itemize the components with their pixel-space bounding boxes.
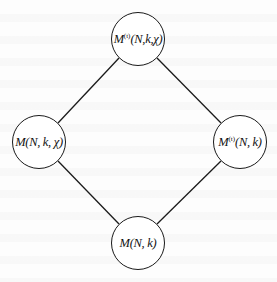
node-right: M(t)(N, k) [213, 115, 267, 169]
node-top-label: M(t)(N,k,χ) [114, 32, 163, 47]
node-left: M(N, k, χ) [12, 115, 66, 169]
diagram-canvas: M(t)(N,k,χ) M(N, k, χ) M(t)(N, k) M(N, k… [0, 0, 277, 282]
edge-top-right [157, 58, 221, 123]
edge-top-left [58, 58, 119, 123]
edge-right-bottom [157, 161, 221, 224]
node-top: M(t)(N,k,χ) [111, 12, 165, 66]
node-bottom: M(N, k) [111, 216, 165, 270]
node-right-label: M(t)(N, k) [218, 135, 261, 150]
edge-left-bottom [58, 161, 119, 224]
node-left-label: M(N, k, χ) [15, 135, 63, 150]
node-bottom-label: M(N, k) [120, 236, 157, 251]
